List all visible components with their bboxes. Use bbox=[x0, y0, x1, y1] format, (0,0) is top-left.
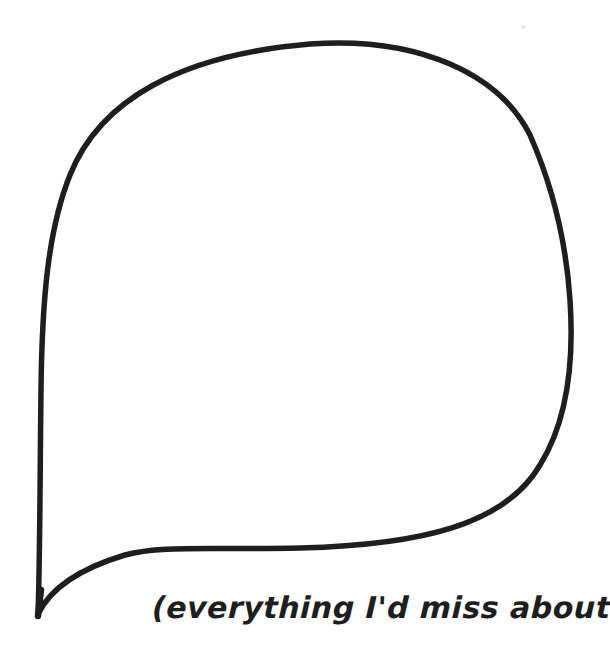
paper-speck bbox=[522, 26, 525, 28]
speech-bubble-tail-tip bbox=[38, 590, 41, 616]
speech-bubble-illustration bbox=[0, 0, 610, 666]
speech-bubble-outline bbox=[38, 43, 571, 614]
caption-text: (everything I'd miss about you!) bbox=[151, 586, 593, 636]
